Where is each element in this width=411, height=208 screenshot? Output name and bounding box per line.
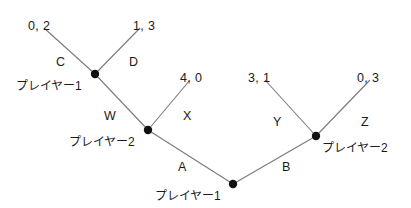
decision-node-n-player2-r <box>312 132 320 140</box>
payoff-label-t-13: 1, 3 <box>133 20 155 33</box>
edge-label-d: D <box>129 56 138 69</box>
payoff-label-t-40: 4, 0 <box>180 72 202 85</box>
node-label-player-1: プレイヤー1 <box>155 190 220 202</box>
node-label-player-2: プレイヤー2 <box>322 142 387 154</box>
tree-graphics <box>0 0 411 208</box>
edge-label-c: C <box>56 56 65 69</box>
edge-label-z: Z <box>361 116 369 129</box>
payoff-label-t-31: 3, 1 <box>248 72 270 85</box>
edge-label-a: A <box>178 161 186 174</box>
tree-edge-c <box>44 28 95 74</box>
tree-edge-b <box>233 136 316 184</box>
edge-label-w: W <box>104 110 116 123</box>
tree-edge-a <box>148 130 233 184</box>
payoff-label-t-02: 0, 2 <box>28 20 50 33</box>
game-tree-diagram: ABWXCDYZプレイヤー1プレイヤー2プレイヤー2プレイヤー10, 21, 3… <box>0 0 411 208</box>
edge-label-b: B <box>282 161 290 174</box>
decision-node-n-root <box>229 180 237 188</box>
node-label-player-1: プレイヤー1 <box>16 80 81 92</box>
tree-edge-w <box>95 74 148 130</box>
edge-label-x: X <box>183 110 191 123</box>
edge-layer <box>44 28 370 184</box>
decision-node-n-player2-l <box>144 126 152 134</box>
decision-node-n-player1-t <box>91 70 99 78</box>
node-label-player-2: プレイヤー2 <box>69 136 134 148</box>
edge-label-y: Y <box>273 116 281 129</box>
payoff-label-t-03: 0, 3 <box>357 72 379 85</box>
